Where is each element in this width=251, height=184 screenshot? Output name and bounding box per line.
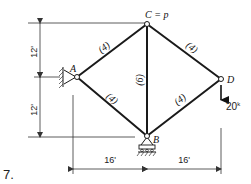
- dim-label-left: 16': [104, 155, 116, 165]
- member-label-AC: (4): [96, 39, 113, 56]
- node-A: [75, 75, 80, 80]
- dim-label-lower: 12': [29, 104, 39, 116]
- member-CD: [147, 24, 221, 79]
- node-label-D: D: [226, 74, 235, 85]
- horizontal-dimension: 16' 16': [73, 155, 221, 169]
- member-label-CB: (6): [134, 74, 146, 86]
- member-BD: [147, 79, 221, 136]
- node-label-C: C = p: [145, 9, 168, 20]
- dim-label-upper: 12': [29, 46, 39, 58]
- node-C: [145, 22, 150, 27]
- node-D: [219, 77, 224, 82]
- truss-diagram: 12' 12' 16' 16' (4) (4) (6) (4) (4): [0, 0, 251, 184]
- dim-label-right: 16': [178, 155, 190, 165]
- load-label: 20k: [226, 101, 241, 112]
- node-B: [145, 134, 150, 139]
- member-AC: [77, 24, 147, 77]
- node-label-A: A: [69, 63, 77, 74]
- member-label-AB: (4): [104, 90, 121, 107]
- vertical-dimension: 12' 12': [29, 23, 40, 137]
- node-label-B: B: [153, 134, 159, 145]
- problem-number: 7.: [3, 167, 14, 182]
